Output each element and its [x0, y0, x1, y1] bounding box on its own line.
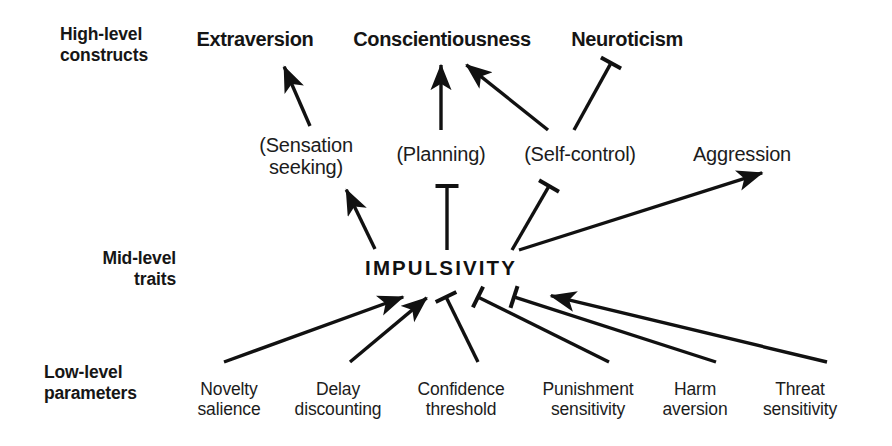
edge-shaft — [512, 187, 548, 250]
node-punishment-sensitivity: Punishment sensitivity — [543, 380, 634, 419]
node-harm-aversion: Harm aversion — [663, 380, 728, 419]
edge-self-control-to-conscientiousness — [466, 65, 548, 130]
edge-delay-discounting-to-impulsivity — [350, 298, 427, 362]
row-label-mid-level: Mid-level traits — [58, 248, 176, 289]
edge-shaft-arrow — [551, 296, 827, 362]
node-threat-sensitivity: Threat sensitivity — [763, 380, 837, 419]
edge-impulsivity-to-planning — [436, 186, 459, 250]
edge-shaft — [447, 298, 478, 362]
inhibitory-terminator — [601, 57, 621, 68]
inhibitory-terminator — [539, 180, 559, 192]
edge-shaft-arrow — [350, 298, 427, 362]
edge-impulsivity-to-self-control — [512, 180, 559, 250]
edge-shaft — [515, 297, 716, 362]
node-impulsivity: IMPULSIVITY — [365, 257, 517, 280]
inhibitory-terminator — [436, 292, 457, 302]
node-self-control: (Self-control) — [524, 143, 636, 165]
row-label-low-level: Low-level parameters — [44, 362, 137, 403]
edge-harm-aversion-to-impulsivity — [510, 286, 716, 362]
edge-self-control-to-neuroticism — [574, 57, 621, 130]
node-sensation-seeking: (Sensation seeking) — [259, 134, 353, 179]
edge-novelty-salience-to-impulsivity — [224, 297, 403, 362]
node-planning: (Planning) — [396, 143, 485, 165]
edge-shaft — [574, 64, 610, 130]
edge-punishment-sensitivity-to-impulsivity — [473, 287, 609, 362]
edge-sensation-seeking-to-extraversion — [284, 67, 310, 126]
inhibitory-terminator — [473, 287, 483, 308]
edge-shaft-arrow — [346, 190, 375, 249]
row-label-high-level: High-level constructs — [60, 24, 148, 65]
edge-shaft — [479, 298, 609, 362]
node-aggression: Aggression — [693, 143, 791, 165]
edge-impulsivity-to-sensation-seeking — [346, 190, 375, 249]
node-neuroticism: Neuroticism — [571, 28, 683, 50]
node-novelty-salience: Novelty salience — [197, 380, 260, 419]
node-confidence-threshold: Confidence threshold — [417, 380, 504, 419]
inhibitory-terminator — [510, 286, 517, 308]
edge-shaft-arrow — [224, 297, 403, 362]
edge-threat-sensitivity-to-impulsivity — [551, 296, 827, 362]
impulsivity-hierarchy-diagram: High-level constructs Mid-level traits L… — [0, 0, 892, 446]
edge-shaft-arrow — [466, 65, 548, 130]
edge-confidence-threshold-to-impulsivity — [436, 292, 478, 362]
edge-impulsivity-to-aggression — [519, 173, 762, 250]
node-extraversion: Extraversion — [197, 28, 314, 50]
edge-group — [224, 57, 827, 362]
edge-shaft-arrow — [519, 173, 762, 250]
node-conscientiousness: Conscientiousness — [353, 28, 530, 50]
node-delay-discounting: Delay discounting — [295, 380, 382, 419]
edge-shaft-arrow — [284, 67, 310, 126]
